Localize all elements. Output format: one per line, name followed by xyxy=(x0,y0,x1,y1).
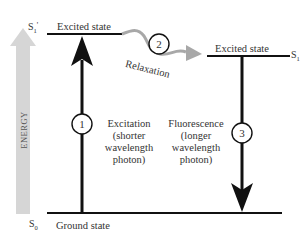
excitation-label: Excitation (shorter wavelength photon) xyxy=(96,118,162,166)
level-s1-prime-label: Excited state xyxy=(57,21,111,33)
fluorescence-label: Fluorescence (longer wavelength photon) xyxy=(160,118,232,166)
fluorescence-line-3: wavelength xyxy=(160,142,232,154)
level-s0-symbol: S0 xyxy=(29,218,38,231)
excitation-line-4: photon) xyxy=(96,154,162,166)
level-s1-prime-symbol: S1' xyxy=(28,21,38,34)
fluorescence-line-4: photon) xyxy=(160,154,232,166)
symbol-subscript: 1 xyxy=(297,55,300,62)
step-2-number: 2 xyxy=(153,38,165,50)
energy-axis-label: ENERGY xyxy=(19,111,29,148)
fluorescence-line-1: Fluorescence xyxy=(160,118,232,130)
excitation-line-3: wavelength xyxy=(96,142,162,154)
symbol-subscript: 0 xyxy=(35,224,38,231)
level-s0-label: Ground state xyxy=(56,220,110,232)
fluorescence-line-2: (longer xyxy=(160,130,232,142)
level-s1-symbol: S1 xyxy=(291,49,300,62)
step-1-number: 1 xyxy=(76,118,88,130)
level-s1-label: Excited state xyxy=(215,43,269,55)
step-3-number: 3 xyxy=(236,127,248,139)
excitation-line-1: Excitation xyxy=(96,118,162,130)
excitation-line-2: (shorter xyxy=(96,130,162,142)
symbol-prime: ' xyxy=(37,21,38,30)
